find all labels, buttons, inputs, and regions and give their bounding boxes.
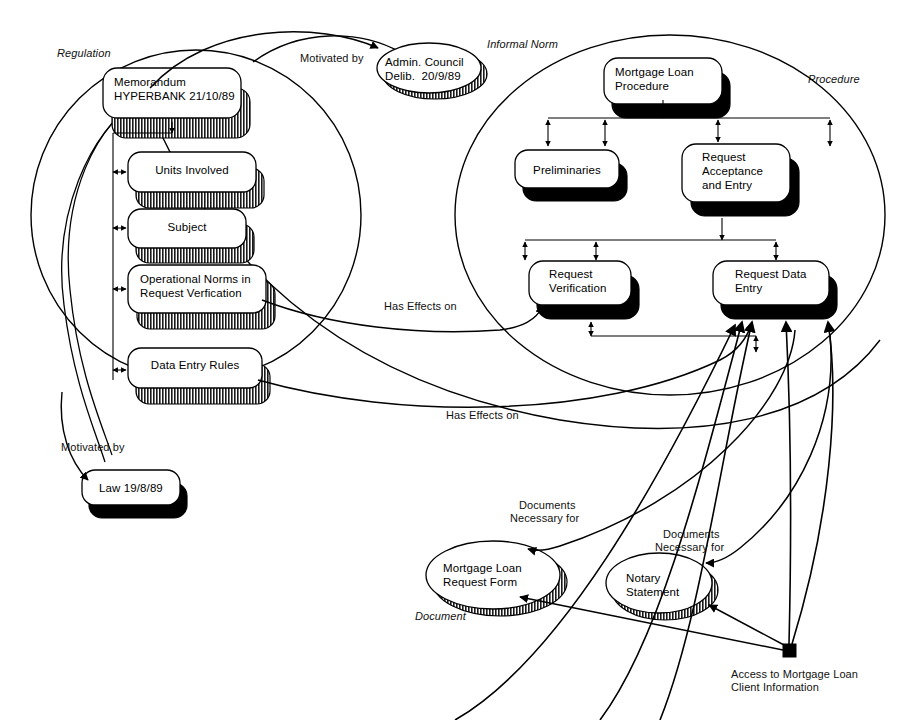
edge-label-has-effects-on-1: Has Effects on [384,300,457,313]
node-subject[interactable] [128,209,254,263]
node-units-involved[interactable] [128,152,264,208]
node-law[interactable] [82,470,187,518]
edge-label-documents-necessary-1-line2: Necessary for [510,512,579,525]
node-mortgage-loan-procedure[interactable] [604,58,730,118]
node-preliminaries[interactable] [515,150,627,201]
node-operational-norms[interactable] [128,265,275,329]
edge-label-has-effects-on-2: Has Effects on [446,409,519,422]
group-label-regulation: Regulation [57,47,111,60]
group-label-procedure: Procedure [808,73,860,86]
node-request-data-entry[interactable] [713,261,837,319]
node-access-client-information[interactable] [783,644,796,657]
node-data-entry-rules[interactable] [128,348,270,404]
diagram-canvas: Regulation Informal Norm Procedure Docum… [0,0,909,720]
group-label-informal-norm: Informal Norm [487,38,558,51]
edge-label-motivated-by-admin: Motivated by [300,52,364,65]
node-memorandum[interactable] [103,68,250,138]
node-label-access-line1: Access to Mortgage Loan [731,668,858,681]
edge-label-documents-necessary-2-line2: Necessary for [655,541,724,554]
edge-label-motivated-by-law: Motivated by [61,441,125,454]
node-request-acceptance[interactable] [682,144,799,216]
edge-label-documents-necessary-1-line1: Documents [519,499,576,512]
edge-label-documents-necessary-2-line1: Documents [663,528,720,541]
group-label-document: Document [415,610,466,623]
node-request-verification[interactable] [529,261,639,319]
node-label-access-line2: Client Information [731,681,819,694]
